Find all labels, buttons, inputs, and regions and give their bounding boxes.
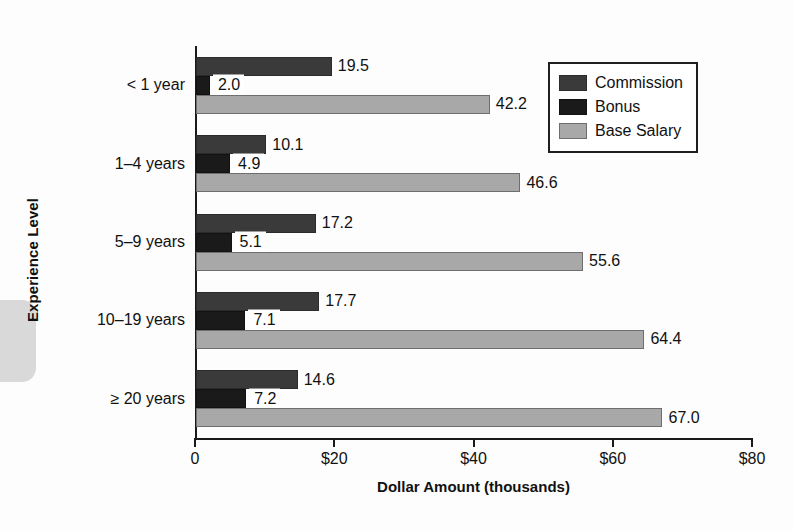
bar-bonus[interactable] — [196, 154, 230, 173]
bar-value-label: 17.7 — [325, 293, 356, 309]
bar-value-label: 7.2 — [249, 388, 280, 409]
bar-value-label: 4.9 — [233, 153, 264, 174]
bar-bonus[interactable] — [196, 311, 245, 330]
y-axis-title: Experience Level — [24, 150, 46, 370]
bar-base[interactable] — [196, 252, 583, 271]
bar-commission[interactable] — [196, 370, 298, 389]
bar-base[interactable] — [196, 173, 520, 192]
x-tick — [473, 438, 475, 447]
bar-value-label: 5.1 — [235, 232, 266, 253]
bar-value-label: 55.6 — [589, 253, 620, 269]
chart-legend: CommissionBonusBase Salary — [548, 62, 698, 153]
x-tick — [333, 438, 335, 447]
category-label: < 1 year — [127, 76, 185, 94]
bar-value-label: 14.6 — [304, 372, 335, 388]
x-tick-label: $40 — [460, 450, 487, 468]
bar-commission[interactable] — [196, 135, 266, 154]
bar-value-label: 42.2 — [496, 96, 527, 112]
bar-group: 5–9 years17.25.155.6 — [195, 214, 752, 271]
x-tick — [194, 438, 196, 447]
legend-label: Bonus — [595, 98, 640, 116]
bar-bonus[interactable] — [196, 389, 246, 408]
bar-base[interactable] — [196, 330, 644, 349]
bar-value-label: 67.0 — [668, 410, 699, 426]
bar-value-label: 19.5 — [338, 58, 369, 74]
category-label: 10–19 years — [97, 311, 185, 329]
category-label: ≥ 20 years — [110, 390, 185, 408]
bar-group: ≥ 20 years14.67.267.0 — [195, 370, 752, 427]
bar-value-label: 2.0 — [213, 75, 244, 96]
legend-item[interactable]: Bonus — [559, 95, 688, 119]
bar-chart: Experience Level 0$20$40$60$80 < 1 year1… — [0, 0, 793, 531]
bar-bonus[interactable] — [196, 233, 232, 252]
bar-value-label: 46.6 — [526, 175, 557, 191]
bar-bonus[interactable] — [196, 76, 210, 95]
bar-value-label: 10.1 — [272, 137, 303, 153]
legend-swatch — [559, 123, 587, 139]
bar-commission[interactable] — [196, 292, 319, 311]
legend-swatch — [559, 99, 587, 115]
bar-commission[interactable] — [196, 214, 316, 233]
x-tick-label: 0 — [191, 450, 200, 468]
bar-value-label: 64.4 — [650, 331, 681, 347]
bar-group: 10–19 years17.77.164.4 — [195, 292, 752, 349]
legend-swatch — [559, 75, 587, 91]
bar-value-label: 7.1 — [248, 310, 279, 331]
bar-base[interactable] — [196, 408, 662, 427]
legend-item[interactable]: Commission — [559, 71, 688, 95]
bar-value-label: 17.2 — [322, 215, 353, 231]
category-label: 5–9 years — [115, 233, 185, 251]
bar-base[interactable] — [196, 95, 490, 114]
x-tick-label: $20 — [321, 450, 348, 468]
category-label: 1–4 years — [115, 155, 185, 173]
x-tick — [751, 438, 753, 447]
legend-label: Commission — [595, 74, 683, 92]
bar-commission[interactable] — [196, 57, 332, 76]
legend-label: Base Salary — [595, 122, 681, 140]
x-tick-label: $80 — [739, 450, 766, 468]
x-tick — [612, 438, 614, 447]
legend-item[interactable]: Base Salary — [559, 119, 688, 143]
x-axis-title: Dollar Amount (thousands) — [195, 478, 752, 495]
x-tick-label: $60 — [599, 450, 626, 468]
